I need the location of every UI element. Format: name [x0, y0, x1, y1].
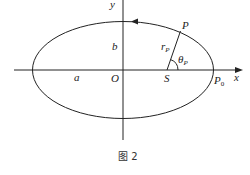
orbit-direction-arrow-icon	[131, 19, 138, 25]
radius-label: rP	[161, 40, 170, 54]
point-label: P	[181, 19, 189, 31]
perihelion-label: P0	[213, 74, 225, 88]
semi-major-label: a	[74, 71, 80, 83]
focus-label: S	[164, 72, 170, 84]
y-axis-label: y	[109, 0, 115, 10]
orbit-diagram: y x O a b S P P0 rP θP 图 2	[0, 0, 250, 175]
semi-minor-label: b	[112, 40, 118, 52]
x-axis-label: x	[233, 71, 239, 83]
figure-caption: 图 2	[118, 151, 138, 162]
angle-arc	[171, 60, 178, 70]
angle-label: θP	[178, 53, 188, 67]
origin-label: O	[111, 72, 119, 84]
